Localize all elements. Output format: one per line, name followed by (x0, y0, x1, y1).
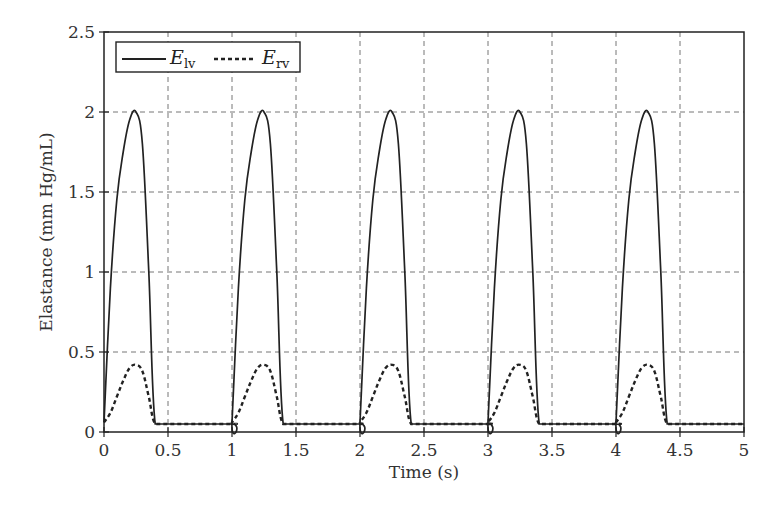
x-tick-label: 3.5 (538, 440, 565, 460)
x-tick-label: 4.5 (666, 440, 693, 460)
y-tick-label: 1.5 (68, 182, 95, 202)
x-tick-label: 4 (611, 440, 622, 460)
x-tick-label: 2 (355, 440, 366, 460)
x-axis-label: Time (s) (389, 462, 459, 482)
grid-lines (104, 32, 744, 432)
y-tick-label: 2.5 (68, 22, 95, 42)
x-tick-label: 5 (739, 440, 750, 460)
x-tick-label: 0.5 (154, 440, 181, 460)
x-tick-label: 0 (99, 440, 110, 460)
x-tick-label: 1 (227, 440, 238, 460)
x-tick-label: 3 (483, 440, 494, 460)
y-tick-label: 2 (84, 102, 95, 122)
x-tick-label: 1.5 (282, 440, 309, 460)
y-tick-label: 0 (84, 422, 95, 442)
y-tick-label: 1 (84, 262, 95, 282)
y-tick-label: 0.5 (68, 342, 95, 362)
y-axis-label: Elastance (mm Hg/mL) (36, 132, 56, 331)
elastance-chart: 00.511.522.533.544.5500.511.522.5 Time (… (0, 0, 781, 512)
x-tick-label: 2.5 (410, 440, 437, 460)
legend: ElvErv (116, 42, 300, 72)
